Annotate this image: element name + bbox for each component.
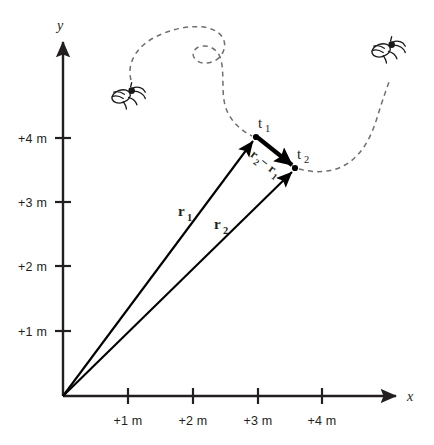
x-tick-label-3: +3 m	[244, 414, 273, 428]
marker-t2-label: t	[297, 146, 302, 162]
flight-path-segment-left	[130, 27, 252, 136]
y-tick-label-3: +3 m	[18, 196, 47, 210]
vector-diagram-figure: y +1 m +2 m +3 m +4 m x +1 m +2 m +3 m +…	[0, 0, 434, 445]
flight-path-segment-right	[299, 79, 390, 172]
fly-left-icon	[110, 83, 145, 109]
y-tick-label-2: +2 m	[18, 260, 47, 274]
marker-t2: t 2	[292, 146, 309, 171]
vector-r1-line	[63, 141, 253, 396]
x-tick-label-1: +1 m	[114, 414, 143, 428]
vector-r1-sublabel: 1	[187, 212, 192, 223]
y-tick-label-4: +4 m	[18, 132, 47, 146]
x-axis-label: x	[406, 389, 414, 404]
x-tick-label-2: +2 m	[179, 414, 208, 428]
marker-t1-sublabel: 1	[265, 123, 270, 134]
x-tick-label-4: +4 m	[308, 414, 337, 428]
marker-t1-dot	[253, 134, 259, 140]
vector-r2-minus-r1: r 2 − r 1	[246, 137, 292, 182]
vector-r1-label: r	[178, 203, 185, 219]
vector-r2-label: r	[214, 216, 221, 232]
marker-t1: t 1	[253, 115, 270, 140]
figure-canvas: y +1 m +2 m +3 m +4 m x +1 m +2 m +3 m +…	[0, 0, 434, 445]
marker-t2-sublabel: 2	[304, 154, 309, 165]
marker-t2-dot	[292, 165, 298, 171]
vector-r2-sublabel: 2	[223, 225, 228, 236]
x-axis: x +1 m +2 m +3 m +4 m	[63, 388, 414, 428]
marker-t1-label: t	[258, 115, 263, 131]
fly-right-icon	[370, 37, 405, 63]
y-tick-label-1: +1 m	[18, 325, 47, 339]
vector-r1: r 1	[63, 141, 253, 396]
y-axis-label: y	[55, 18, 64, 33]
y-axis: y +1 m +2 m +3 m +4 m	[18, 18, 71, 396]
